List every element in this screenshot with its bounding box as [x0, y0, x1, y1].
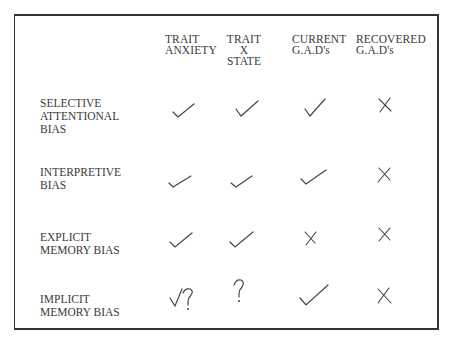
check-icon — [166, 222, 206, 252]
row-label-explicit-memory-bias: EXPLICIT MEMORY BIAS — [40, 231, 120, 257]
row-label-line: INTERPRETIVE — [40, 166, 121, 179]
check-icon — [165, 163, 205, 193]
column-header-recovered-gads: RECOVERED G.A.D's — [356, 34, 426, 56]
header-line: STATE — [226, 56, 262, 67]
column-header-trait-x-state: TRAIT X STATE — [226, 34, 262, 67]
row-label-line: ATTENTIONAL — [40, 110, 119, 123]
check-icon — [227, 164, 267, 194]
check-icon — [232, 91, 272, 121]
row-label-line: BIAS — [40, 179, 121, 192]
row-label-line: MEMORY BIAS — [40, 306, 120, 319]
cross-icon — [375, 92, 415, 122]
cross-icon — [374, 284, 414, 314]
cross-icon — [374, 162, 414, 192]
row-label-interpretive-bias: INTERPRETIVE BIAS — [40, 166, 121, 192]
row-label-line: SELECTIVE — [40, 97, 119, 110]
check-icon — [298, 282, 338, 312]
row-label-line: IMPLICIT — [40, 293, 120, 306]
header-line: ANXIETY — [165, 45, 217, 56]
row-label-selective-attentional-bias: SELECTIVE ATTENTIONAL BIAS — [40, 97, 119, 136]
row-label-line: BIAS — [40, 123, 119, 136]
check-icon — [301, 91, 341, 121]
check-icon — [168, 92, 208, 122]
row-label-implicit-memory-bias: IMPLICIT MEMORY BIAS — [40, 293, 120, 319]
check-icon — [299, 160, 339, 190]
check-icon — [226, 222, 266, 252]
header-line: G.A.D's — [356, 45, 426, 56]
row-label-line: EXPLICIT — [40, 231, 120, 244]
question-icon — [233, 276, 273, 306]
header-line: G.A.D's — [292, 45, 346, 56]
cross-icon — [374, 222, 414, 252]
row-label-line: MEMORY BIAS — [40, 244, 120, 257]
column-header-trait-anxiety: TRAIT ANXIETY — [165, 34, 217, 56]
check-question-icon — [168, 282, 208, 312]
column-header-current-gads: CURRENT G.A.D's — [292, 34, 346, 56]
cross-icon — [301, 226, 341, 256]
